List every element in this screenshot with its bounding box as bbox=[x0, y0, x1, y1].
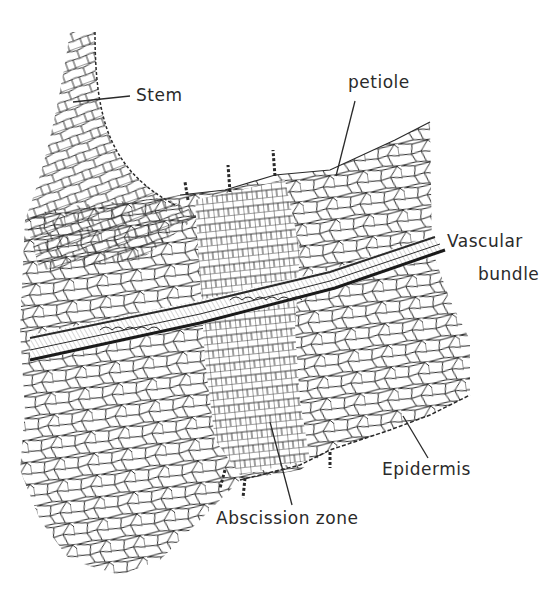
stem-label: Stem bbox=[136, 86, 182, 105]
vascular-bundle-label-line1: Vascular bbox=[447, 232, 523, 251]
epidermis-leader-line bbox=[403, 416, 428, 458]
vascular-bundle-label-line2: bundle bbox=[478, 265, 539, 284]
petiole-label: petiole bbox=[348, 73, 410, 92]
abscission-zone-label: Abscission zone bbox=[216, 509, 358, 528]
epidermis-label: Epidermis bbox=[382, 460, 471, 479]
abscission-diagram: Stem petiole Vascular bundle Epidermis A… bbox=[0, 0, 555, 609]
